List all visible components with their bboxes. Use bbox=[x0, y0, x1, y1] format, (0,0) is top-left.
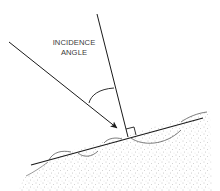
incidence-angle-label-line1: INCIDENCE bbox=[47, 38, 101, 48]
incidence-angle-diagram bbox=[0, 0, 220, 191]
incidence-angle-label-line2: ANGLE bbox=[47, 48, 101, 58]
surface-normal-line bbox=[97, 14, 128, 137]
incidence-angle-arc bbox=[89, 88, 114, 103]
